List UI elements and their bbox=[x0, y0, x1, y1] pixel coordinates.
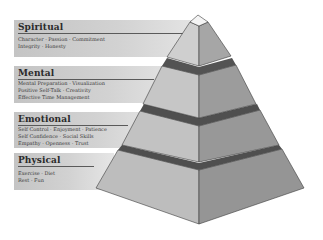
pyramid-tier-spiritual bbox=[167, 15, 231, 66]
pyramid-graphic bbox=[0, 0, 323, 240]
